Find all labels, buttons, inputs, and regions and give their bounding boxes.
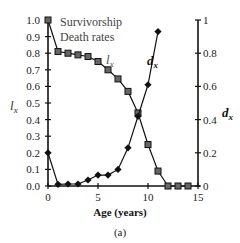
right-y-tick-label: 0: [203, 180, 209, 192]
death-rate-marker: [84, 176, 91, 183]
survivorship-marker: [75, 52, 81, 58]
death-rate-marker: [144, 81, 151, 88]
survivorship-marker: [95, 59, 101, 65]
left-y-tick-label: 0.0: [26, 180, 40, 192]
survivorship-marker: [65, 50, 71, 56]
left-y-tick-label: 0.8: [26, 47, 40, 59]
x-tick-label: 10: [143, 191, 155, 203]
legend-death-rates: Death rates: [60, 30, 115, 44]
survivorship-marker: [165, 183, 171, 189]
death-rate-marker: [114, 166, 121, 173]
death-rate-marker: [94, 171, 101, 178]
dx-series-label: dx: [147, 53, 159, 70]
death-rate-marker: [124, 144, 131, 151]
life-table-chart: 0.00.10.20.30.40.50.60.70.80.91.000.20.4…: [0, 0, 240, 243]
left-y-tick-label: 0.9: [26, 31, 40, 43]
figure-caption: (a): [114, 226, 127, 239]
death-rate-marker: [44, 149, 51, 156]
left-y-tick-label: 0.5: [26, 97, 40, 109]
right-y-tick-label: 0.6: [203, 80, 217, 92]
left-y-tick-label: 0.1: [26, 163, 40, 175]
survivorship-marker: [85, 54, 91, 60]
left-y-tick-label: 0.2: [26, 147, 40, 159]
x-tick-label: 0: [45, 191, 51, 203]
left-axis-title: lx: [10, 98, 18, 115]
x-tick-label: 15: [193, 191, 205, 203]
right-y-tick-label: 0.8: [203, 47, 217, 59]
survivorship-marker: [45, 17, 51, 23]
death-rate-marker: [104, 171, 111, 178]
legend-survivorship: Survivorship: [60, 15, 122, 29]
left-y-tick-label: 0.6: [26, 80, 40, 92]
death-rate-marker: [154, 28, 161, 35]
right-y-tick-label: 0.4: [203, 114, 217, 126]
left-y-tick-label: 0.3: [26, 130, 40, 142]
lx-series-label: lx: [106, 52, 114, 69]
survivorship-marker: [145, 142, 151, 148]
survivorship-line: [48, 20, 188, 186]
survivorship-marker: [155, 168, 161, 174]
death-rate-marker: [54, 181, 61, 188]
left-y-tick-label: 1.0: [26, 14, 40, 26]
survivorship-marker: [185, 183, 191, 189]
right-y-tick-label: 0.2: [203, 147, 217, 159]
left-y-tick-label: 0.4: [26, 114, 40, 126]
x-tick-label: 5: [95, 191, 101, 203]
left-y-tick-label: 0.7: [26, 64, 40, 76]
survivorship-marker: [125, 88, 131, 94]
survivorship-marker: [55, 49, 61, 55]
survivorship-marker: [175, 183, 181, 189]
right-y-tick-label: 1: [203, 14, 209, 26]
right-axis-title: dx: [222, 105, 234, 122]
survivorship-marker: [115, 76, 121, 82]
x-axis-title: Age (years): [93, 206, 147, 219]
